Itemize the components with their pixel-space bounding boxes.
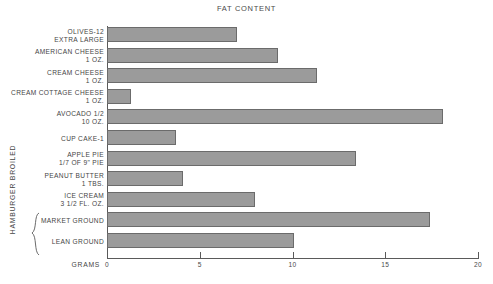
bar-row	[107, 130, 478, 145]
category-label-line2: 1 OZ.	[0, 77, 104, 85]
category-label-line1: AMERICAN CHEESE	[35, 48, 104, 55]
bar	[107, 130, 176, 145]
category-label-line2: 1/7 OF 9" PIE	[0, 159, 104, 167]
bar-row	[107, 151, 478, 166]
x-axis-tick-label: 0	[95, 261, 119, 268]
category-label: CREAM COTTAGE CHEESE1 OZ.	[0, 89, 107, 105]
category-label-line1: CUP CAKE-1	[61, 135, 104, 142]
bar	[107, 151, 356, 166]
category-label: ICE CREAM3 1/2 FL. OZ.	[0, 192, 107, 208]
category-label: CUP CAKE-1	[0, 135, 107, 143]
bar-row	[107, 109, 478, 124]
category-label: PEANUT BUTTER1 TBS.	[0, 172, 107, 188]
bar	[107, 233, 294, 248]
x-axis-tick-label: 20	[466, 261, 490, 268]
category-label-line1: APPLE PIE	[67, 151, 104, 158]
x-axis-tick	[293, 252, 294, 258]
bar-row	[107, 171, 478, 186]
x-axis-tick-label: 10	[281, 261, 305, 268]
fat-content-bar-chart: FAT CONTENT GRAMS HAMBURGER BROILED OLIV…	[0, 0, 493, 284]
bar-row	[107, 68, 478, 83]
category-label-line1: MARKET GROUND	[41, 217, 104, 224]
category-label: CREAM CHEESE1 OZ.	[0, 69, 107, 85]
bar	[107, 27, 237, 42]
bar-row	[107, 89, 478, 104]
category-label-line1: ICE CREAM	[64, 192, 104, 199]
category-label: AVOCADO 1/210 OZ.	[0, 110, 107, 126]
category-label: MARKET GROUND	[0, 217, 107, 225]
bar	[107, 68, 317, 83]
bar-row	[107, 27, 478, 42]
category-label-line2: 3 1/2 FL. OZ.	[0, 200, 104, 208]
category-label: APPLE PIE1/7 OF 9" PIE	[0, 151, 107, 167]
bar-row	[107, 233, 478, 248]
x-axis-tick	[478, 252, 479, 258]
x-axis-tick-label: 15	[373, 261, 397, 268]
chart-title: FAT CONTENT	[0, 4, 493, 13]
x-axis-tick	[200, 252, 201, 258]
x-axis-tick	[385, 252, 386, 258]
bar	[107, 89, 131, 104]
bar	[107, 212, 430, 227]
category-label-line2: 1 TBS.	[0, 180, 104, 188]
x-axis-title: GRAMS	[28, 261, 100, 268]
bar	[107, 192, 255, 207]
bar-row	[107, 48, 478, 63]
category-label-line1: AVOCADO 1/2	[57, 110, 104, 117]
category-label-line2: 1 OZ.	[0, 97, 104, 105]
category-label-line2: 1 OZ.	[0, 56, 104, 64]
category-label-line2: EXTRA LARGE	[0, 36, 104, 44]
bar	[107, 109, 443, 124]
category-label-line2: 10 OZ.	[0, 118, 104, 126]
category-label-line1: CREAM COTTAGE CHEESE	[11, 89, 104, 96]
bar-row	[107, 212, 478, 227]
x-axis-tick-label: 5	[188, 261, 212, 268]
category-label-line1: PEANUT BUTTER	[45, 172, 104, 179]
category-label: OLIVES-12EXTRA LARGE	[0, 28, 107, 44]
bar	[107, 171, 183, 186]
category-label: AMERICAN CHEESE1 OZ.	[0, 48, 107, 64]
category-label-line1: OLIVES-12	[67, 28, 104, 35]
x-axis-tick	[107, 252, 108, 258]
category-label: LEAN GROUND	[0, 238, 107, 246]
bar-row	[107, 192, 478, 207]
x-axis-line	[107, 258, 479, 259]
category-label-line1: LEAN GROUND	[52, 238, 104, 245]
bar	[107, 48, 278, 63]
category-label-line1: CREAM CHEESE	[47, 69, 104, 76]
